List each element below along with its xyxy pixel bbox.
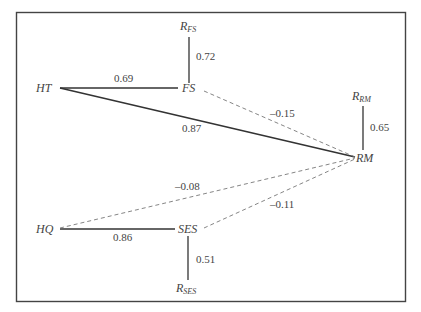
node-r-rm-subscript: RM (358, 95, 372, 104)
node-r-rm: RRM (351, 89, 372, 104)
node-rm: RM (355, 151, 374, 165)
edge-ht-rm (60, 88, 355, 157)
edge-fs-rm (204, 91, 355, 157)
path-diagram: HT FS RM HQ SES RFS RRM RSES 0.69 0.87 –… (0, 0, 421, 312)
node-fs: FS (181, 81, 195, 95)
coef-hq-rm: –0.08 (174, 180, 200, 192)
coef-hq-ses: 0.86 (113, 231, 133, 243)
node-r-ses-subscript: SES (183, 287, 196, 296)
node-ses: SES (178, 222, 197, 236)
node-ht: HT (35, 81, 53, 95)
coef-ses-rm: –0.11 (269, 198, 294, 210)
coef-rrm-rm: 0.65 (370, 121, 390, 133)
edge-ses-rm (204, 159, 355, 228)
coef-rses-ses: 0.51 (196, 253, 215, 265)
coef-ht-fs: 0.69 (114, 72, 134, 84)
node-r-ses: RSES (175, 281, 196, 296)
node-r-fs: RFS (179, 19, 196, 34)
coef-fs-rm: –0.15 (269, 107, 295, 119)
node-hq: HQ (35, 222, 54, 236)
node-r-fs-subscript: FS (186, 25, 196, 34)
coef-rfs-fs: 0.72 (196, 50, 215, 62)
coef-ht-rm: 0.87 (182, 122, 202, 134)
edge-hq-rm (60, 158, 355, 228)
